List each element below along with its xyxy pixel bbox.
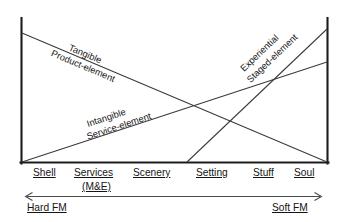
axis-label-stuff: Stuff <box>253 167 274 179</box>
intangible-service-line <box>22 62 327 162</box>
intangible-label-group: Intangible Service-element <box>82 100 153 142</box>
axis-label-scenery: Scenery <box>133 167 170 179</box>
axis-label-services-sub: (M&E) <box>82 181 111 193</box>
spectrum-label-hard-fm: Hard FM <box>27 202 67 214</box>
axis-label-services: Services <box>74 167 113 179</box>
facilities-management-spectrum-diagram: Tangible Product-element Intangible Serv… <box>0 0 343 222</box>
axis-label-setting: Setting <box>196 167 228 179</box>
experiential-label-group: Experiential Staged-element <box>236 23 299 85</box>
axis-label-soul: Soul <box>294 167 314 179</box>
spectrum-label-soft-fm: Soft FM <box>272 202 308 214</box>
axis-label-shell: Shell <box>33 167 56 179</box>
tangible-label-group: Tangible Product-element <box>50 37 122 84</box>
diagram-canvas: Tangible Product-element Intangible Serv… <box>0 0 343 222</box>
